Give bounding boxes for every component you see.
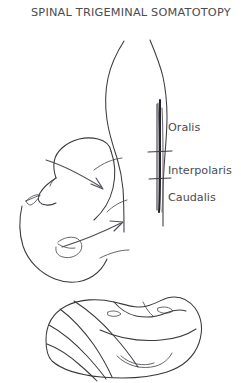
dermatome-chin bbox=[117, 353, 172, 368]
dermatome-chin-inner bbox=[121, 356, 154, 365]
spinal-trigeminal-tract bbox=[159, 100, 160, 212]
dermatome-mouth-line bbox=[100, 329, 196, 341]
label-interpolaris: Interpolaris bbox=[168, 164, 232, 177]
tick-oralis-interpolaris bbox=[148, 151, 172, 152]
face-profile-group bbox=[20, 138, 129, 282]
dermatome-band-2 bbox=[49, 325, 106, 379]
face-mouth bbox=[56, 237, 82, 257]
dermatome-band-3 bbox=[74, 301, 138, 367]
brainstem-inner-shade-2 bbox=[162, 108, 163, 212]
face-occiput-contour bbox=[100, 250, 129, 258]
label-oralis: Oralis bbox=[168, 121, 200, 134]
brainstem-left-border bbox=[106, 41, 124, 232]
face-chin-contour bbox=[20, 206, 107, 282]
figure-title: SPINAL TRIGEMINAL SOMATOTOPY bbox=[31, 6, 231, 19]
dermatome-eye-right bbox=[158, 307, 173, 313]
dermatome-eye-left bbox=[108, 311, 121, 316]
dermatome-band-1 bbox=[60, 309, 112, 377]
face-jaw-contour bbox=[94, 151, 115, 220]
arrows-group bbox=[46, 160, 123, 247]
arrow-lower-shaft bbox=[62, 223, 121, 247]
figure-canvas: SPINAL TRIGEMINAL SOMATOTOPY Oralis Inte… bbox=[0, 0, 241, 383]
face-scalp-contour bbox=[54, 138, 111, 178]
tick-interpolaris-caudalis bbox=[149, 178, 171, 179]
dermatome-head-group bbox=[46, 297, 201, 381]
spinal-trigeminal-somatotopy-figure: SPINAL TRIGEMINAL SOMATOTOPY Oralis Inte… bbox=[0, 0, 241, 383]
face-lip-line bbox=[58, 244, 75, 248]
face-forehead-nose-contour bbox=[38, 178, 56, 205]
label-caudalis: Caudalis bbox=[168, 191, 216, 204]
brainstem-group: Oralis Interpolaris Caudalis bbox=[106, 40, 232, 232]
